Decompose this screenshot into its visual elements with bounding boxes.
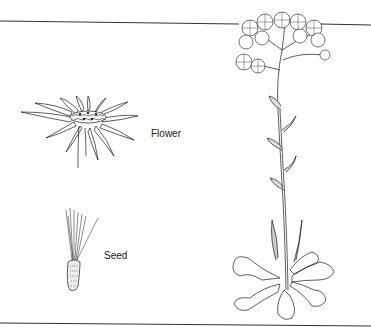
top-border-left: [0, 21, 239, 24]
seed-drawing: [66, 208, 98, 291]
whole-plant-drawing: [233, 12, 334, 319]
bottom-border: [0, 323, 371, 326]
seed-label: Seed: [104, 250, 127, 261]
flower-drawing: [21, 96, 138, 168]
flower-label: Flower: [151, 128, 181, 139]
top-border-right: [320, 24, 371, 25]
botanical-diagram: Flower Seed: [0, 0, 371, 333]
illustration-canvas: [0, 0, 371, 333]
